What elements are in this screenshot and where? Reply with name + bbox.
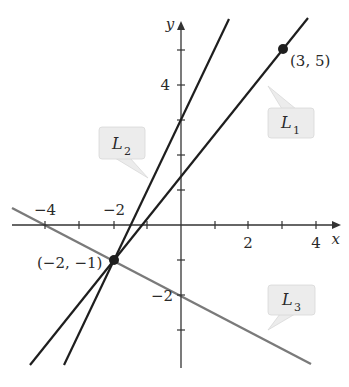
callout-l1: L 1: [268, 86, 314, 138]
callout-l2: L 2: [99, 127, 148, 178]
y-axis: [177, 21, 185, 368]
x-tick-label-neg4: −4: [34, 201, 56, 219]
point-neg2-neg1: [109, 255, 119, 265]
x-tick-label-4: 4: [311, 234, 321, 252]
point-label-neg2-neg1: (−2, −1): [37, 254, 102, 272]
callout-l1-name: L: [280, 113, 292, 132]
point-3-5: [278, 44, 288, 54]
coordinate-plane: −4 −2 2 4 4 −2 x y (3, 5) (−2, −1) L 2 L…: [0, 0, 349, 387]
x-tick-label-neg2: −2: [103, 201, 125, 219]
line-l1: [30, 18, 308, 365]
callout-l2-sub: 2: [124, 145, 131, 158]
x-axis-label: x: [332, 230, 341, 248]
y-axis-label: y: [165, 15, 175, 33]
y-tick-label-neg2: −2: [151, 287, 173, 305]
x-tick-label-2: 2: [243, 234, 253, 252]
callout-l3-name: L: [281, 290, 293, 309]
point-label-3-5: (3, 5): [290, 52, 330, 70]
callout-l3: L 3: [268, 285, 315, 330]
callout-l3-sub: 3: [294, 301, 301, 314]
callout-l1-sub: 1: [293, 124, 300, 137]
line-l2: [64, 19, 229, 365]
y-tick-label-4: 4: [160, 76, 170, 94]
line-l3: [12, 208, 311, 364]
x-axis: [12, 221, 341, 229]
callout-l2-name: L: [111, 134, 123, 153]
